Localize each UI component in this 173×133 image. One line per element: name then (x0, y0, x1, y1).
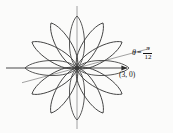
fraction-denominator: 12 (143, 54, 152, 61)
point-coordinate-label: (3, 0) (119, 71, 135, 79)
theta-symbol: θ (132, 49, 136, 57)
polar-plot-canvas (0, 0, 173, 133)
theta-equation-label: θ = π 12 (132, 45, 152, 61)
equals-sign: = (137, 49, 142, 57)
polar-rose-figure: θ = π 12 (3, 0) (0, 0, 173, 133)
pi-over-twelve-fraction: π 12 (143, 45, 152, 61)
fraction-numerator: π (145, 45, 151, 52)
